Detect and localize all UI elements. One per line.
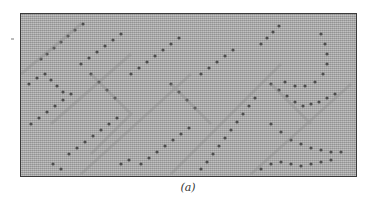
fabric-photo [20,13,357,177]
stray-mark [11,38,14,40]
eyelet-pattern [21,14,357,177]
figure-caption: (a) [0,181,376,194]
